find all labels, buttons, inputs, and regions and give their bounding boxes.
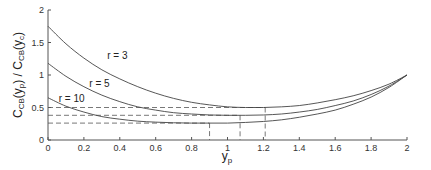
y-tick-label: 0.5 (31, 103, 44, 113)
y-axis-title: CCB(yp) / CCB(yc) (11, 32, 26, 118)
y-tick-label: 2 (39, 5, 44, 15)
x-tick-label: 0.2 (78, 143, 91, 153)
chart-axes: 00.20.40.60.811.21.41.61.8200.511.52 (31, 5, 409, 153)
curve-label: r = 5 (89, 78, 110, 89)
x-tick-label: 1.6 (329, 143, 342, 153)
x-tick-label: 0.4 (114, 143, 127, 153)
x-tick-label: 1.2 (257, 143, 270, 153)
curve-labels: r = 3r = 5r = 10 (59, 50, 128, 105)
y-tick-label: 1.5 (31, 38, 44, 48)
reference-lines (48, 108, 265, 141)
line-chart: 00.20.40.60.811.21.41.61.8200.511.52 r =… (0, 0, 431, 170)
x-tick-label: 0.8 (185, 143, 198, 153)
y-tick-label: 1 (39, 70, 44, 80)
x-tick-label: 1.4 (293, 143, 306, 153)
x-tick-label: 1.8 (365, 143, 378, 153)
x-tick-label: 2 (404, 143, 409, 153)
y-tick-label: 0 (39, 135, 44, 145)
x-tick-label: 0 (45, 143, 50, 153)
curve-label: r = 3 (107, 50, 128, 61)
curve-label: r = 10 (59, 93, 85, 104)
x-tick-label: 0.6 (149, 143, 162, 153)
x-axis-title: yp (222, 149, 233, 165)
chart-curves (48, 26, 407, 123)
